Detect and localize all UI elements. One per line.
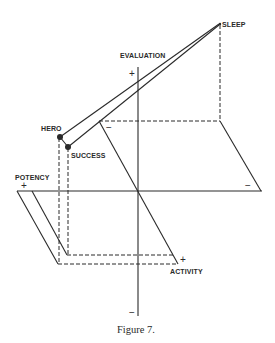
evaluation-label: EVALUATION: [120, 52, 165, 59]
activity-label: ACTIVITY: [170, 268, 203, 275]
evaluation-plus: +: [129, 68, 135, 79]
sleep-success-line: [68, 25, 219, 147]
activity-minus: −: [106, 122, 112, 133]
hero-label: HERO: [41, 125, 62, 132]
success-plane-edge: [32, 191, 67, 255]
success-point: [65, 144, 71, 150]
sleep-point: [219, 23, 221, 25]
semantic-space-diagram: SLEEP HERO SUCCESS EVALUATION POTENCY AC…: [0, 0, 275, 343]
sleep-plane-edge: [220, 121, 261, 191]
success-label: SUCCESS: [71, 152, 106, 159]
figure-caption: Figure 7.: [117, 324, 155, 335]
sleep-label: SLEEP: [222, 21, 246, 28]
activity-plus: +: [180, 254, 186, 265]
potency-plus: +: [21, 180, 27, 191]
sleep-hero-line: [60, 24, 219, 137]
evaluation-minus: −: [129, 307, 135, 318]
potency-minus: −: [245, 180, 251, 191]
hero-point: [57, 134, 63, 140]
